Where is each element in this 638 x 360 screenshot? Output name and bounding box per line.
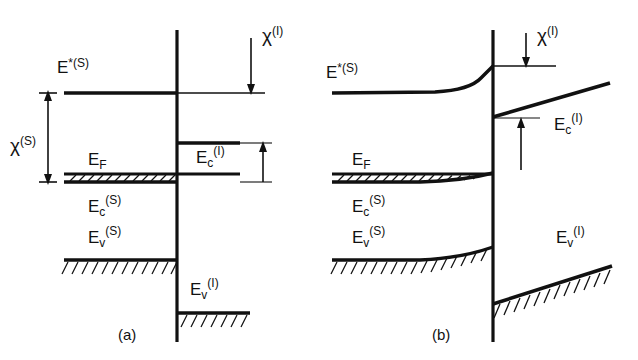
chi-i-arrow-a	[247, 38, 255, 95]
label-e-v-i-a: Ev(I)	[190, 276, 219, 302]
label-e-v-s-b: Ev(S)	[352, 224, 385, 250]
label-e-v-s-a: Ev(S)	[88, 224, 121, 250]
label-e-f-a: EF	[88, 150, 107, 172]
label-e-v-i-b: Ev(I)	[556, 224, 585, 250]
e-v-s-level-b	[332, 247, 493, 260]
chi-i-arrow-b	[522, 33, 530, 68]
valence-hatch-i-b	[494, 270, 610, 318]
e-c-i-offset-arrow-b	[517, 117, 525, 170]
panel-a: E*(S) χ(S) χ(I) EF Ec(I) Ec(S) Ev(S) Ev	[10, 24, 283, 343]
valence-hatch-s-a	[62, 262, 177, 274]
label-e-c-i-a: Ec(I)	[196, 144, 225, 170]
label-e-star-s-b: E*(S)	[326, 61, 358, 82]
label-e-star-s-a: E*(S)	[57, 56, 89, 77]
label-chi-i-b: χ(I)	[537, 24, 558, 46]
band-diagram-figure: E*(S) χ(S) χ(I) EF Ec(I) Ec(S) Ev(S) Ev	[0, 0, 638, 360]
caption-panel-b: (b)	[432, 326, 450, 343]
accumulation-hatch-a	[70, 175, 175, 181]
chi-s-bracket-a	[39, 90, 57, 185]
label-e-c-i-b: Ec(I)	[554, 111, 583, 137]
band-diagram-canvas: E*(S) χ(S) χ(I) EF Ec(I) Ec(S) Ev(S) Ev	[0, 0, 638, 360]
label-e-c-s-a: Ec(S)	[88, 193, 121, 219]
e-c-i-level-b	[493, 83, 610, 117]
valence-hatch-i-a	[181, 315, 247, 327]
label-chi-s-a: χ(S)	[10, 134, 36, 156]
panel-b: E*(S) χ(I) EF Ec(I) Ec(S) Ev(S) Ev(I) (b…	[326, 24, 612, 343]
label-chi-i-a: χ(I)	[262, 24, 283, 46]
label-e-c-s-b: Ec(S)	[352, 193, 385, 219]
e-c-i-offset-bracket-a	[240, 141, 272, 182]
label-e-f-b: EF	[352, 150, 371, 172]
caption-panel-a: (a)	[118, 326, 136, 343]
